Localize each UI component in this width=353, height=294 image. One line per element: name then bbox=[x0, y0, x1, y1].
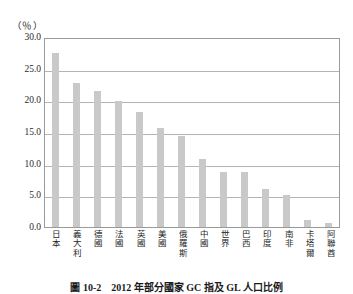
y-axis-tick-label: 15.0 bbox=[1, 128, 41, 138]
bar-slot bbox=[276, 39, 297, 227]
x-axis-tick-labels: 日本義大利德國法國英國美國俄羅斯中國世界巴西印度南非卡塔爾阿聯酋 bbox=[44, 230, 340, 278]
bar-slot bbox=[45, 39, 66, 227]
bar-slot bbox=[213, 39, 234, 227]
bar bbox=[52, 53, 59, 227]
y-axis-tick-labels: 30.025.020.015.010.05.00.0 bbox=[0, 38, 41, 228]
y-axis-unit-label: （％） bbox=[12, 18, 43, 32]
bar-slot bbox=[66, 39, 87, 227]
y-axis-tick-label: 0.0 bbox=[1, 223, 41, 233]
x-axis-category-label: 巴西 bbox=[240, 230, 249, 249]
bar-slot bbox=[171, 39, 192, 227]
bar-slot bbox=[234, 39, 255, 227]
x-tick-slot: 日本 bbox=[44, 230, 65, 249]
bar bbox=[199, 159, 206, 227]
bar bbox=[304, 220, 311, 227]
x-axis-category-label: 德國 bbox=[92, 230, 101, 249]
bar-slot bbox=[297, 39, 318, 227]
x-axis-category-label: 俄羅斯 bbox=[177, 230, 186, 258]
x-tick-slot: 法國 bbox=[107, 230, 128, 249]
x-axis-category-label: 英國 bbox=[135, 230, 144, 249]
bar-slot bbox=[150, 39, 171, 227]
x-tick-slot: 卡塔爾 bbox=[298, 230, 319, 258]
x-axis-category-label: 卡塔爾 bbox=[304, 230, 313, 258]
bar bbox=[73, 83, 80, 227]
bar bbox=[325, 223, 332, 227]
x-axis-category-label: 中國 bbox=[198, 230, 207, 249]
x-axis-category-label: 法國 bbox=[113, 230, 122, 249]
figure-caption: 圖 10-2 2012 年部分國家 GC 指及 GL 人口比例 bbox=[0, 279, 353, 294]
y-axis-tick-label: 10.0 bbox=[1, 160, 41, 170]
x-tick-slot: 中國 bbox=[192, 230, 213, 249]
bar-slot bbox=[87, 39, 108, 227]
x-tick-slot: 印度 bbox=[255, 230, 276, 249]
x-axis-category-label: 義大利 bbox=[71, 230, 80, 258]
x-axis-category-label: 印度 bbox=[261, 230, 270, 249]
y-axis-tick-label: 20.0 bbox=[1, 97, 41, 107]
bar-slot bbox=[129, 39, 150, 227]
bar bbox=[220, 172, 227, 227]
x-tick-slot: 英國 bbox=[129, 230, 150, 249]
bar bbox=[283, 195, 290, 227]
y-axis-tick-label: 30.0 bbox=[1, 33, 41, 43]
bar-series bbox=[45, 39, 339, 227]
bar-slot bbox=[108, 39, 129, 227]
bar bbox=[178, 136, 185, 227]
bar bbox=[262, 189, 269, 227]
x-tick-slot: 俄羅斯 bbox=[171, 230, 192, 258]
x-tick-slot: 世界 bbox=[213, 230, 234, 249]
x-axis-category-label: 美國 bbox=[156, 230, 165, 249]
x-tick-slot: 巴西 bbox=[234, 230, 255, 249]
bar bbox=[157, 128, 164, 227]
bar-slot bbox=[192, 39, 213, 227]
x-axis-category-label: 阿聯酋 bbox=[325, 230, 334, 258]
y-axis-tick-label: 5.0 bbox=[1, 192, 41, 202]
x-tick-slot: 德國 bbox=[86, 230, 107, 249]
plot-area bbox=[44, 38, 340, 228]
bar-slot bbox=[318, 39, 339, 227]
x-tick-slot: 阿聯酋 bbox=[319, 230, 340, 258]
bar bbox=[115, 101, 122, 227]
bar bbox=[241, 172, 248, 227]
bar bbox=[94, 91, 101, 227]
y-axis-tick-label: 25.0 bbox=[1, 65, 41, 75]
x-axis-category-label: 南非 bbox=[283, 230, 292, 249]
x-tick-slot: 南非 bbox=[277, 230, 298, 249]
x-axis-category-label: 日本 bbox=[50, 230, 59, 249]
bar bbox=[136, 112, 143, 227]
bar-slot bbox=[255, 39, 276, 227]
x-axis-category-label: 世界 bbox=[219, 230, 228, 249]
x-tick-slot: 美國 bbox=[150, 230, 171, 249]
x-tick-slot: 義大利 bbox=[65, 230, 86, 258]
